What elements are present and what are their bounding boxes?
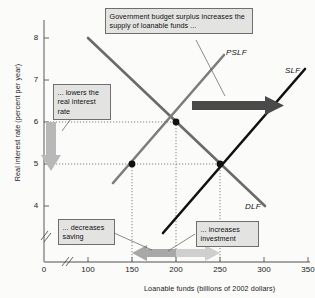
y-tick-6: 6 xyxy=(26,117,46,126)
callout-interest-rate: ... lowers the real interest rate xyxy=(53,84,111,120)
x-tick-150: 150 xyxy=(122,265,142,274)
callout-decreases-saving: ... decreases saving xyxy=(58,219,115,245)
x-tick-0: 0 xyxy=(34,265,54,274)
x-tick-100: 100 xyxy=(78,265,98,274)
dot-saving-point xyxy=(129,161,136,168)
dot-original-equilibrium xyxy=(173,119,180,126)
y-axis-title: Real interest rate (percent per year) xyxy=(13,48,22,198)
curve-label-slf: SLF xyxy=(285,66,300,75)
x-tick-marks xyxy=(88,257,308,262)
x-tick-350: 350 xyxy=(298,265,315,274)
x-tick-250: 250 xyxy=(210,265,230,274)
x-tick-300: 300 xyxy=(254,265,274,274)
x-tick-200: 200 xyxy=(166,265,186,274)
y-tick-8: 8 xyxy=(26,33,46,42)
curve-slf xyxy=(163,69,305,233)
callout-supply-shift: Government budget surplus increases the … xyxy=(105,8,253,34)
dot-new-equilibrium xyxy=(217,161,224,168)
economics-loanable-funds-chart: 8 7 6 5 4 0 100 150 200 250 300 350 Real… xyxy=(0,0,315,298)
saving-decrease-arrow xyxy=(132,245,176,261)
y-tick-4: 4 xyxy=(26,201,46,210)
supply-shift-arrow xyxy=(192,96,284,115)
callout-increases-investment: ... increases investment xyxy=(196,221,259,247)
curve-label-dlf: DLF xyxy=(245,202,261,211)
chart-plot-area xyxy=(0,0,315,298)
y-tick-7: 7 xyxy=(26,75,46,84)
x-axis-title: Loanable funds (billions of 2002 dollars… xyxy=(144,284,275,293)
y-tick-5: 5 xyxy=(26,159,46,168)
curve-label-pslf: PSLF xyxy=(226,48,247,57)
